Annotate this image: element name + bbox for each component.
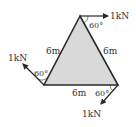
angle-arc-left: [38, 78, 47, 80]
angle-arc-top: [84, 16, 88, 23]
force-label-top: 1kN: [110, 11, 129, 21]
angle-arc-bottom-right: [110, 85, 113, 91]
diagram-canvas: 1kN 60° 1kN 60° 1kN 60° 6m 6m 6m: [0, 0, 136, 127]
angle-label-left: 60°: [34, 69, 48, 78]
truss-diagram: 1kN 60° 1kN 60° 1kN 60° 6m 6m 6m: [0, 0, 136, 127]
side-label-left: 6m: [46, 46, 61, 56]
force-label-left: 1kN: [8, 53, 27, 63]
side-label-bottom: 6m: [72, 88, 87, 98]
angle-label-top: 60°: [89, 21, 103, 30]
side-label-right: 6m: [103, 46, 118, 56]
force-label-bottom-right: 1kN: [82, 109, 101, 119]
angle-label-bottom-right: 60°: [95, 89, 109, 98]
